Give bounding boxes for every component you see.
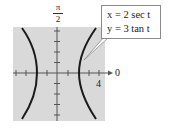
x-tick-label-4: 4 (96, 79, 101, 89)
x-axis-arrow-icon (108, 71, 113, 76)
x-axis-end-label: 0 (115, 68, 120, 78)
pi-symbol: π (56, 2, 61, 12)
equation-x: x = 2 sec t (107, 8, 160, 22)
equation-callout: x = 2 sec t y = 3 tan t (101, 5, 161, 39)
denominator: 2 (56, 14, 61, 24)
y-axis-label-pi-over-2: π 2 (52, 3, 64, 24)
equation-y: y = 3 tan t (107, 22, 160, 36)
